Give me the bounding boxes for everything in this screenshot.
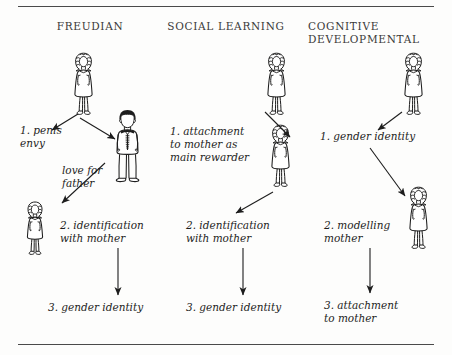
figure-cognitive-mother-middle — [410, 187, 427, 248]
arrow-cognitive-gender-identity-to-mother — [370, 148, 405, 196]
arrow-social-mother-to-attachment — [265, 112, 290, 137]
column-header-cognitive-developmental: COGNITIVE DEVELOPMENTAL — [308, 20, 438, 45]
figure-freudian-girl — [27, 202, 42, 254]
figure-social-mother-middle — [272, 125, 289, 186]
label-freudian-identification: 2. identification with mother — [60, 219, 144, 245]
label-freudian-penis-envy: 1. penis envy — [20, 124, 62, 150]
arrow-social-mother-to-identification — [236, 192, 273, 213]
figure-cognitive-mother-top — [405, 53, 422, 114]
label-social-attachment: 1. attachment to mother as main rewarder — [170, 125, 249, 163]
arrow-cognitive-mother-to-gender-identity — [378, 112, 402, 130]
label-social-identification: 2. identification with mother — [186, 219, 270, 245]
arrow-freudian-mother-to-father — [80, 118, 115, 139]
column-header-freudian: FREUDIAN — [30, 20, 150, 33]
label-cognitive-modelling-mother: 2. modelling mother — [324, 219, 390, 245]
label-social-gender-identity: 3. gender identity — [186, 301, 281, 314]
gender-development-diagram: FREUDIAN SOCIAL LEARNING COGNITIVE DEVEL… — [0, 0, 452, 355]
label-freudian-love-for-father: love for father — [62, 164, 102, 190]
figure-social-mother-top — [268, 53, 285, 114]
column-header-social-learning: SOCIAL LEARNING — [152, 20, 300, 33]
figure-freudian-mother-top — [75, 53, 92, 114]
figure-freudian-father — [116, 110, 138, 182]
top-rule — [18, 6, 434, 7]
bottom-rule — [18, 344, 434, 345]
label-cognitive-attachment: 3. attachment to mother — [324, 299, 398, 325]
label-freudian-gender-identity: 3. gender identity — [48, 301, 143, 314]
label-cognitive-gender-identity: 1. gender identity — [320, 130, 415, 143]
